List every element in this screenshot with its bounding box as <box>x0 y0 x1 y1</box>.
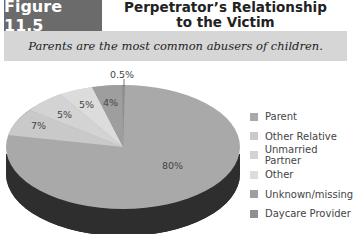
legend-item-unknown: Unknown/missing <box>250 185 353 204</box>
legend-swatch <box>250 171 258 179</box>
figure-title-line1: Perpetrator’s Relationship <box>104 0 347 15</box>
legend-swatch <box>250 132 258 140</box>
legend-label: Other <box>265 169 293 180</box>
figure-title-line2: to the Victim <box>104 15 347 30</box>
legend-label: Unknown/missing <box>265 189 353 200</box>
figure-subtitle: Parents are the most common abusers of c… <box>4 31 347 61</box>
legend-label: Other Relative <box>265 131 337 142</box>
legend-item-other-relative: Other Relative <box>250 126 353 145</box>
label-daycare: 0.5% <box>110 69 134 80</box>
chart-legend: Parent Other Relative Unmarried Partner … <box>250 107 353 223</box>
legend-swatch <box>250 190 258 198</box>
pie-chart: 80% 7% 5% 5% 4% 0.5% <box>0 62 240 234</box>
legend-swatch <box>250 113 258 121</box>
label-parent: 80% <box>162 160 183 171</box>
figure-label: Figure 11.5 <box>4 0 102 31</box>
label-unmarried-partner: 5% <box>57 109 72 120</box>
legend-label: Unmarried Partner <box>265 144 353 166</box>
legend-label: Parent <box>265 111 297 122</box>
figure-title: Perpetrator’s Relationship to the Victim <box>104 0 347 31</box>
legend-swatch <box>250 151 258 159</box>
label-unknown: 4% <box>103 97 118 108</box>
legend-item-parent: Parent <box>250 107 353 126</box>
label-other-relative: 7% <box>31 120 46 131</box>
legend-swatch <box>250 210 258 218</box>
legend-item-other: Other <box>250 165 353 184</box>
legend-item-daycare: Daycare Provider <box>250 204 353 223</box>
legend-item-unmarried-partner: Unmarried Partner <box>250 146 353 165</box>
label-other: 5% <box>79 99 94 110</box>
legend-label: Daycare Provider <box>265 208 351 219</box>
